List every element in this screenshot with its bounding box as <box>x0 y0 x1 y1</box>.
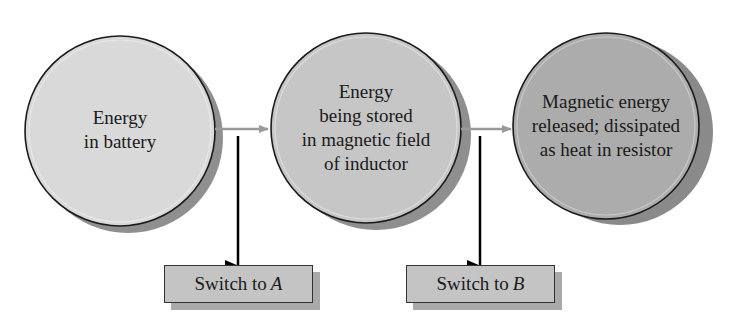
resistor-node-label: Magnetic energy released; dissipated as … <box>511 33 701 219</box>
battery-label-line-1: Energy <box>93 106 148 130</box>
inductor-label-line-3: in magnetic field <box>302 128 431 152</box>
energy-flow-diagram: Energy in battery Energy being stored in… <box>0 0 736 334</box>
resistor-label-line-1: Magnetic energy <box>542 90 670 114</box>
battery-node-label: Energy in battery <box>30 40 210 220</box>
inductor-label-line-1: Energy <box>339 80 394 104</box>
resistor-label-line-2: released; dissipated <box>532 114 680 138</box>
switch-a-box: Switch to A <box>164 265 313 303</box>
resistor-label-line-3: as heat in resistor <box>540 138 672 162</box>
switch-a-prefix: Switch to <box>195 273 267 295</box>
inductor-label-line-2: being stored <box>319 104 412 128</box>
switch-b-prefix: Switch to <box>437 273 509 295</box>
inductor-label-line-4: of inductor <box>324 152 408 176</box>
switch-b-box: Switch to B <box>406 265 555 303</box>
inductor-node-label: Energy being stored in magnetic field of… <box>271 33 461 223</box>
switch-b-variable: B <box>513 273 525 295</box>
battery-label-line-2: in battery <box>84 130 156 154</box>
switch-a-variable: A <box>271 273 283 295</box>
